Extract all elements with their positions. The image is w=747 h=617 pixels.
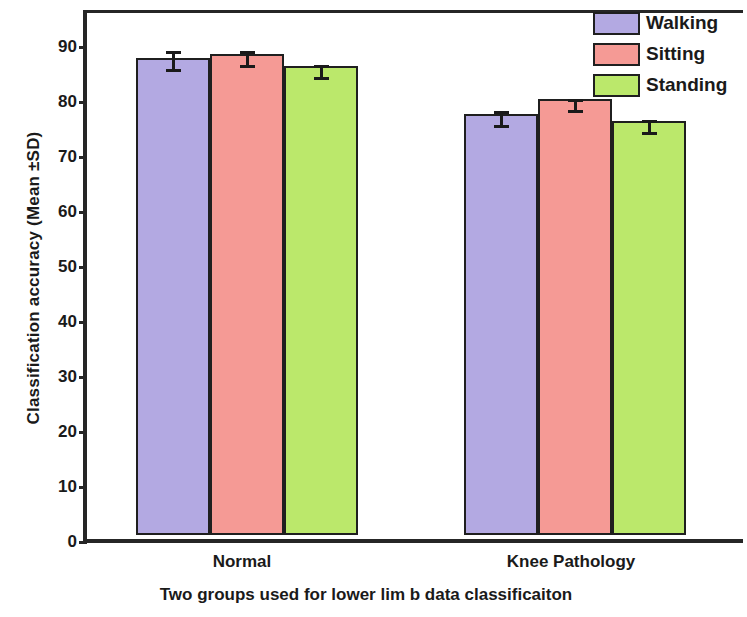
legend-label-sitting: Sitting	[646, 43, 705, 65]
error-bar-cap-bottom-sitting-1	[568, 110, 583, 113]
error-bar-cap-bottom-sitting-0	[240, 65, 255, 68]
y-axis-tick-label-10: 10	[39, 478, 77, 495]
error-bar-cap-top-standing-1	[642, 120, 657, 123]
y-axis-tick-mark-40	[79, 321, 87, 324]
error-bar-cap-top-walking-1	[494, 111, 509, 114]
legend-item-walking[interactable]: Walking	[593, 8, 747, 38]
legend-label-walking: Walking	[646, 12, 718, 34]
y-axis-tick-label-80: 80	[39, 93, 77, 110]
y-axis-title: Classification accuracy (Mean ±SD)	[24, 78, 44, 478]
y-axis-tick-mark-70	[79, 156, 87, 159]
error-bar-cap-top-standing-0	[314, 65, 329, 68]
legend-item-standing[interactable]: Standing	[593, 70, 747, 100]
bar-sitting-normal[interactable]	[210, 54, 284, 535]
legend: Walking Sitting Standing	[593, 8, 747, 101]
y-axis-tick-mark-0	[79, 541, 87, 544]
y-axis-tick-label-0: 0	[39, 533, 77, 550]
y-axis-tick-label-30: 30	[39, 368, 77, 385]
error-bar-cap-top-sitting-1	[568, 99, 583, 102]
x-axis-group-label-knee-pathology: Knee Pathology	[507, 552, 635, 572]
error-bar-cap-top-walking-0	[166, 51, 181, 54]
x-axis-group-label-normal: Normal	[213, 552, 272, 572]
bar-walking-normal[interactable]	[136, 58, 210, 535]
error-bar-cap-bottom-standing-1	[642, 132, 657, 135]
legend-label-standing: Standing	[646, 74, 727, 96]
error-bar-cap-top-sitting-0	[240, 51, 255, 54]
y-axis-tick-label-50: 50	[39, 258, 77, 275]
y-axis-tick-mark-80	[79, 101, 87, 104]
bar-sitting-knee-pathology[interactable]	[538, 99, 612, 535]
y-axis-tick-label-90: 90	[39, 38, 77, 55]
y-axis-tick-label-70: 70	[39, 148, 77, 165]
y-axis-tick-mark-60	[79, 211, 87, 214]
y-axis-tick-label-40: 40	[39, 313, 77, 330]
error-bar-cap-bottom-standing-0	[314, 77, 329, 80]
y-axis-tick-mark-90	[79, 46, 87, 49]
bar-standing-normal[interactable]	[284, 66, 358, 535]
bar-standing-knee-pathology[interactable]	[612, 121, 686, 535]
legend-swatch-walking	[593, 12, 640, 35]
y-axis-tick-label-60: 60	[39, 203, 77, 220]
bar-walking-knee-pathology[interactable]	[464, 114, 538, 535]
y-axis-tick-mark-30	[79, 376, 87, 379]
x-axis-title: Two groups used for lower lim b data cla…	[0, 585, 732, 605]
error-bar-cap-bottom-walking-1	[494, 125, 509, 128]
y-axis-tick-mark-20	[79, 431, 87, 434]
y-axis-tick-mark-50	[79, 266, 87, 269]
y-axis-tick-label-20: 20	[39, 423, 77, 440]
legend-item-sitting[interactable]: Sitting	[593, 39, 747, 69]
legend-swatch-sitting	[593, 43, 640, 66]
y-axis-tick-mark-10	[79, 486, 87, 489]
error-bar-cap-bottom-walking-0	[166, 69, 181, 72]
legend-swatch-standing	[593, 74, 640, 97]
